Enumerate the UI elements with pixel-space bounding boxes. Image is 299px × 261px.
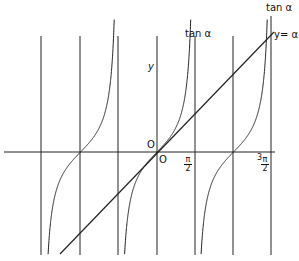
- tan-alpha-label-mid: tan α: [185, 29, 211, 39]
- y-axis-label: y: [148, 62, 154, 72]
- tan-branch: [125, 20, 191, 255]
- tan-branch: [201, 20, 267, 255]
- origin-label-upper: O: [147, 140, 155, 150]
- tan-alpha-diagram: [0, 0, 299, 261]
- tan-branch: [48, 20, 114, 255]
- y-equals-alpha-label: y= α: [274, 30, 298, 40]
- tan-alpha-label-top: tan α: [266, 3, 292, 13]
- half-pi-tick-label: π 2: [184, 156, 192, 173]
- three-half-pi-tick-label: π 2: [261, 156, 269, 173]
- tan-alpha-curves: [48, 20, 267, 255]
- vertical-lines: [41, 16, 271, 255]
- origin-label-lower: O: [159, 155, 167, 165]
